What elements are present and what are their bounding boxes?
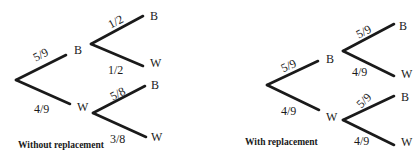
edge-b-to-w bbox=[343, 51, 394, 76]
tree-without-replacement: 5/9 B 4/9 W 1/2 B 1/2 W 5/8 B 3/8 W With… bbox=[16, 9, 163, 150]
prob-label: 4/9 bbox=[281, 104, 296, 118]
node-label: B bbox=[399, 19, 407, 33]
node-label: W bbox=[401, 135, 413, 149]
prob-label: 4/9 bbox=[352, 65, 367, 79]
node-label: B bbox=[151, 78, 159, 92]
node-label: W bbox=[77, 100, 89, 114]
caption-without-replacement: Without replacement bbox=[18, 140, 105, 150]
prob-label: 5/9 bbox=[354, 22, 374, 42]
prob-label: 4/9 bbox=[354, 134, 369, 148]
prob-label: 5/8 bbox=[108, 84, 128, 104]
node-label: W bbox=[326, 110, 338, 124]
prob-label: 4/9 bbox=[34, 102, 49, 116]
node-label: W bbox=[401, 67, 413, 81]
node-label: B bbox=[74, 43, 82, 57]
node-label: B bbox=[326, 52, 334, 66]
prob-label: 5/9 bbox=[31, 45, 51, 65]
tree-with-replacement: 5/9 B 4/9 W 5/9 B 4/9 W 5/9 B 4/9 W With… bbox=[245, 19, 413, 149]
edge-root-to-w bbox=[16, 80, 70, 104]
prob-label: 1/2 bbox=[106, 12, 126, 32]
caption-with-replacement: With replacement bbox=[245, 137, 319, 147]
probability-trees-canvas: 5/9 B 4/9 W 1/2 B 1/2 W 5/8 B 3/8 W With… bbox=[0, 0, 419, 158]
prob-label: 3/8 bbox=[110, 132, 125, 146]
node-label: W bbox=[151, 130, 163, 144]
node-label: B bbox=[150, 9, 158, 23]
node-label: B bbox=[401, 90, 409, 104]
node-label: W bbox=[150, 56, 162, 70]
prob-label: 1/2 bbox=[108, 63, 123, 77]
